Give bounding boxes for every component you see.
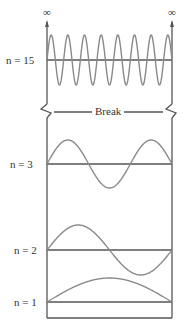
break-label: Break — [95, 105, 122, 117]
wave-n1 — [47, 278, 172, 302]
break-zigzag-right — [166, 104, 176, 118]
infinity-right: ∞ — [168, 6, 176, 18]
mode-label-2: n = 2 — [14, 244, 37, 256]
mode-label-3: n = 3 — [10, 158, 33, 170]
break-zigzag-left — [41, 104, 51, 118]
standing-wave-diagram: ∞ ∞ Break n = 15 n = 3 n = 2 n = 1 — [0, 0, 188, 335]
mode-label-1: n = 1 — [14, 296, 37, 308]
infinity-left: ∞ — [43, 6, 51, 18]
mode-label-15: n = 15 — [6, 54, 35, 66]
